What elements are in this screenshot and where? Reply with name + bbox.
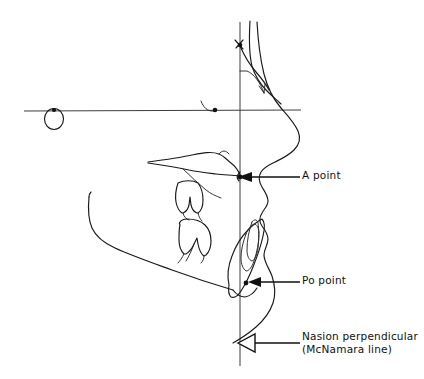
external-auditory-meatus: [45, 108, 64, 130]
callout-mcnamara-text: (McNamara line): [302, 343, 418, 356]
callout-label-a-point: A point: [302, 169, 341, 182]
nasion-perpendicular-arrowhead: [238, 334, 255, 352]
callout-label-po-point: Po point: [302, 274, 346, 287]
soft-tissue-profile: [233, 22, 300, 343]
reference-lines: [24, 22, 301, 366]
callout-label-nasion-perpendicular: Nasion perpendicular (McNamara line): [302, 330, 418, 356]
callout-nasion-perpendicular-pointer: [238, 334, 300, 352]
lower-molar: [178, 219, 211, 263]
cephalometric-figure: A point Po point Nasion perpendicular (M…: [0, 0, 424, 379]
po-point-arrowhead: [248, 277, 261, 287]
callout-a-point-pointer: [238, 172, 300, 182]
maxilla: [148, 151, 242, 198]
nasion-landmark-dot: [238, 43, 243, 48]
callout-a-point-text: A point: [302, 169, 341, 181]
upper-molar: [176, 181, 203, 221]
pogonion-landmark-dot: [244, 281, 249, 286]
porion-landmark-dot: [52, 108, 56, 112]
cephalometric-tracing-svg: [0, 0, 424, 379]
orbitale-landmark-dot: [213, 108, 218, 113]
frankfort-horizontal-line: [24, 110, 301, 111]
callout-po-point-text: Po point: [302, 274, 346, 286]
callout-nasion-text: Nasion perpendicular: [302, 330, 418, 342]
